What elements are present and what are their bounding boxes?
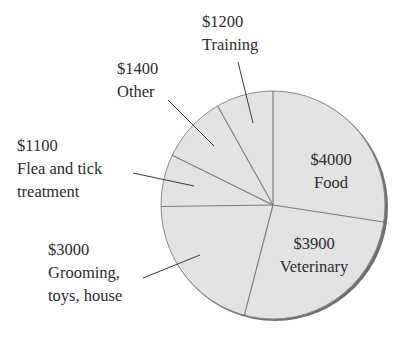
label-veterinary-value: $3900 — [266, 232, 362, 255]
label-veterinary: $3900 Veterinary — [266, 232, 362, 278]
label-grooming-line2: toys, house — [48, 284, 122, 307]
label-grooming-line1: Grooming, — [48, 261, 122, 284]
label-grooming-value: $3000 — [48, 238, 122, 261]
label-flea-line2: treatment — [17, 180, 102, 203]
label-flea-value: $1100 — [17, 134, 102, 157]
label-food-value: $4000 — [296, 148, 366, 171]
label-other: $1400 Other — [117, 57, 158, 103]
label-food-name: Food — [296, 171, 366, 194]
label-training-name: Training — [202, 33, 258, 56]
label-training-value: $1200 — [202, 10, 258, 33]
label-training: $1200 Training — [202, 10, 258, 56]
label-grooming: $3000 Grooming, toys, house — [48, 238, 122, 307]
label-veterinary-name: Veterinary — [266, 255, 362, 278]
label-food: $4000 Food — [296, 148, 366, 194]
label-other-value: $1400 — [117, 57, 158, 80]
label-flea: $1100 Flea and tick treatment — [17, 134, 102, 203]
label-other-name: Other — [117, 80, 158, 103]
label-flea-line1: Flea and tick — [17, 157, 102, 180]
